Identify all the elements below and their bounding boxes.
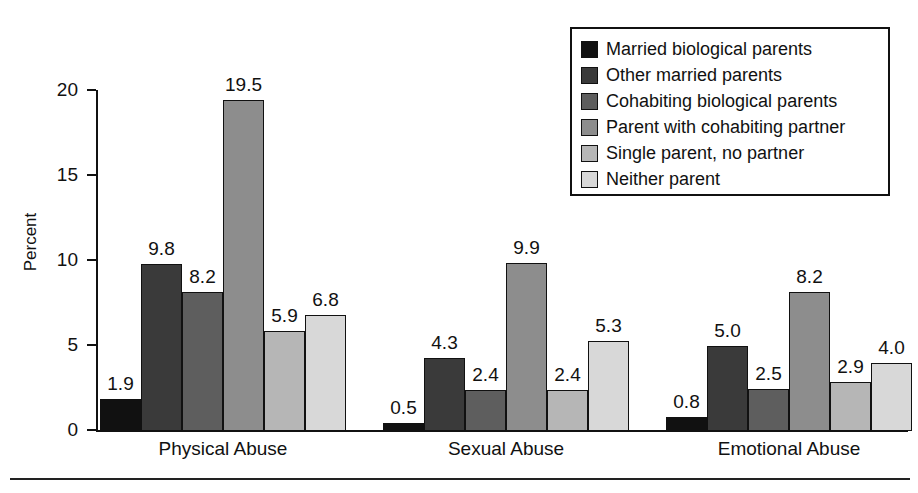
legend-item: Cohabiting biological parents <box>581 88 880 114</box>
bar <box>506 263 547 431</box>
bar-value-label: 6.8 <box>296 290 355 309</box>
bar <box>264 331 305 431</box>
legend-item: Neither parent <box>581 166 880 192</box>
bar-value-label: 5.0 <box>698 321 757 340</box>
y-tick-label: 10 <box>38 250 78 269</box>
bar-value-label: 8.2 <box>780 267 839 286</box>
y-tick-mark <box>87 89 96 91</box>
bar-value-label: 9.8 <box>132 239 191 258</box>
bar <box>666 417 707 431</box>
legend-item: Parent with cohabiting partner <box>581 114 880 140</box>
bar-value-label: 9.9 <box>497 238 556 257</box>
bar-chart: Percent 05101520 1.99.88.219.55.96.80.54… <box>0 0 918 493</box>
footer-divider <box>10 478 910 480</box>
legend-item-label: Married biological parents <box>606 40 812 58</box>
y-axis-title: Percent <box>21 187 41 297</box>
bar-value-label: 4.0 <box>862 338 918 357</box>
bar-value-label: 4.3 <box>415 333 474 352</box>
bar <box>223 100 264 432</box>
y-tick-label: 20 <box>38 80 78 99</box>
legend-item-label: Single parent, no partner <box>606 144 804 162</box>
bar <box>182 292 223 431</box>
bar <box>871 363 912 431</box>
legend-swatch-icon <box>581 145 598 162</box>
y-tick-mark <box>87 429 96 431</box>
bar <box>707 346 748 431</box>
bar <box>465 390 506 431</box>
legend-item-label: Cohabiting biological parents <box>606 92 837 110</box>
bar <box>100 399 141 431</box>
legend-swatch-icon <box>581 171 598 188</box>
x-axis-category-label: Physical Abuse <box>80 438 366 460</box>
bar-value-label: 5.3 <box>579 316 638 335</box>
legend-item-label: Neither parent <box>606 170 720 188</box>
y-tick-label: 15 <box>38 165 78 184</box>
y-tick-mark <box>87 174 96 176</box>
bar <box>748 389 789 432</box>
legend-item: Married biological parents <box>581 36 880 62</box>
x-axis-category-label: Emotional Abuse <box>646 438 918 460</box>
y-tick-mark <box>87 344 96 346</box>
y-tick-label: 0 <box>38 420 78 439</box>
bar-value-label: 19.5 <box>214 75 273 94</box>
bar <box>383 423 424 432</box>
bar <box>305 315 346 431</box>
legend-swatch-icon <box>581 67 598 84</box>
bar <box>547 390 588 431</box>
bar <box>588 341 629 431</box>
bar <box>141 264 182 431</box>
legend-swatch-icon <box>581 93 598 110</box>
legend-swatch-icon <box>581 119 598 136</box>
bar <box>830 382 871 431</box>
legend-item: Other married parents <box>581 62 880 88</box>
x-axis-category-label: Sexual Abuse <box>363 438 649 460</box>
legend-item-label: Parent with cohabiting partner <box>606 118 845 136</box>
y-tick-label: 5 <box>38 335 78 354</box>
legend-item: Single parent, no partner <box>581 140 880 166</box>
y-tick-mark <box>87 259 96 261</box>
legend-swatch-icon <box>581 41 598 58</box>
legend-item-label: Other married parents <box>606 66 782 84</box>
legend: Married biological parentsOther married … <box>570 27 890 196</box>
